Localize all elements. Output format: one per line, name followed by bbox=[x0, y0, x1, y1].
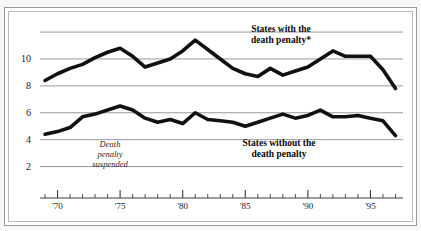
xaxis-tick-label: '80 bbox=[171, 202, 195, 211]
data-series-group bbox=[45, 40, 395, 135]
series-label-with-line2: death penalty* bbox=[251, 35, 311, 45]
yaxis-tick-label: 2 bbox=[13, 162, 31, 172]
figure-outer-frame: 246810 '70'75'80'85'90'95 States with th… bbox=[4, 7, 417, 226]
xaxis-tick-group bbox=[45, 190, 395, 198]
clipped-caption bbox=[0, 0, 421, 7]
yaxis-tick-label: 10 bbox=[13, 54, 31, 64]
annotation-line1: Death bbox=[100, 139, 121, 149]
xaxis-tick-label: '85 bbox=[233, 202, 257, 211]
annotation-line2: penalty bbox=[97, 149, 122, 159]
yaxis-tick-label: 8 bbox=[13, 81, 31, 91]
series-label-with-line1: States with the bbox=[251, 24, 311, 34]
series-label-without-line1: States without the bbox=[243, 138, 316, 148]
xaxis-tick-label: '75 bbox=[108, 202, 132, 211]
xaxis-tick-label: '70 bbox=[46, 202, 70, 211]
xaxis-tick-label: '95 bbox=[358, 202, 382, 211]
line-chart-plot bbox=[9, 12, 414, 223]
xaxis-tick-label: '90 bbox=[296, 202, 320, 211]
series-label-with-death-penalty: States with the death penalty* bbox=[221, 24, 341, 46]
series-label-without-line2: death penalty bbox=[251, 149, 306, 159]
figure-page: 246810 '70'75'80'85'90'95 States with th… bbox=[0, 0, 421, 231]
series-label-without-death-penalty: States without the death penalty bbox=[209, 138, 349, 160]
data-series-line-1 bbox=[45, 40, 395, 88]
yaxis-tick-label: 4 bbox=[13, 135, 31, 145]
figure-inner-frame: 246810 '70'75'80'85'90'95 States with th… bbox=[8, 11, 413, 222]
annotation-death-penalty-suspended: Death penalty suspended bbox=[75, 139, 145, 169]
data-series-line-2 bbox=[45, 106, 395, 136]
yaxis-tick-label: 6 bbox=[13, 108, 31, 118]
annotation-line3: suspended bbox=[92, 159, 127, 169]
